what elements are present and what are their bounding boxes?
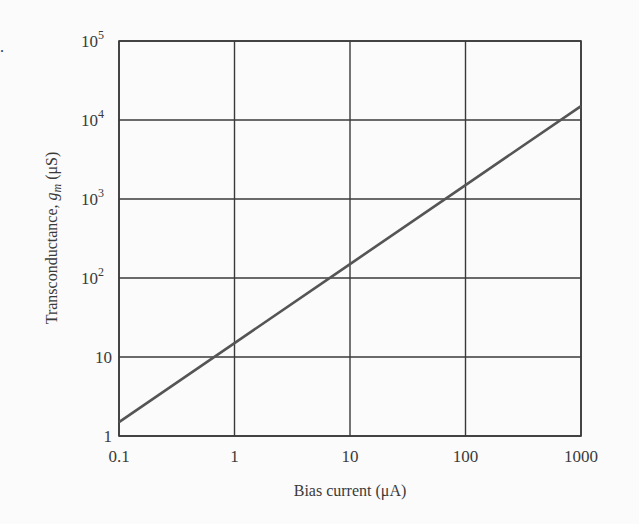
y-axis-label: Transconductance, gm (μS) — [43, 152, 64, 325]
y-tick-labels: 110102103104105 — [81, 28, 112, 446]
chart: 0.11101001000 110102103104105 Bias curre… — [0, 0, 639, 524]
x-tick-label: 1000 — [564, 447, 598, 466]
x-tick-label: 0.1 — [108, 447, 129, 466]
y-tick-label: 105 — [81, 28, 104, 51]
y-tick-label: 1 — [104, 427, 113, 446]
y-tick-label: 10 — [95, 348, 112, 367]
x-tick-label: 100 — [453, 447, 479, 466]
x-tick-label: 1 — [230, 447, 239, 466]
x-tick-labels: 0.11101001000 — [108, 447, 598, 466]
x-tick-label: 10 — [342, 447, 359, 466]
y-tick-label: 103 — [81, 186, 104, 209]
x-axis-label: Bias current (μA) — [294, 482, 407, 500]
stray-mark: . — [0, 38, 4, 55]
y-tick-label: 104 — [81, 107, 104, 130]
y-tick-label: 102 — [81, 265, 104, 288]
grid-lines — [119, 41, 581, 436]
